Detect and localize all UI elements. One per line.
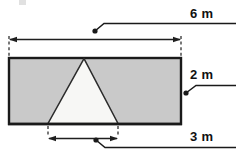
geometry-diagram: 6 m 2 m 3 m <box>0 0 236 155</box>
top-arrow-left <box>9 37 17 42</box>
dimension-label-base: 3 m <box>190 130 213 143</box>
top-dimension-group <box>9 36 181 56</box>
dimension-label-width: 6 m <box>190 7 213 20</box>
leader-2m <box>183 86 236 96</box>
bottom-dimension-group <box>48 126 118 141</box>
leader-6m <box>92 24 236 34</box>
leader-path-3m <box>96 140 236 148</box>
bottom-arrow-right <box>110 136 118 141</box>
top-arrow-right <box>173 37 181 42</box>
leader-path-2m <box>186 86 236 94</box>
bottom-arrow-left <box>48 136 56 141</box>
leader-path-6m <box>95 24 236 32</box>
dimension-label-height: 2 m <box>190 68 213 81</box>
